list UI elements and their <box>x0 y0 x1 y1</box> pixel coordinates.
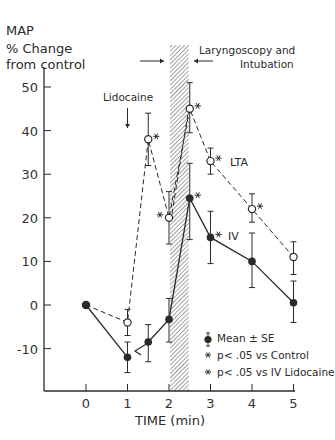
y-tick-label: 0 <box>30 298 38 313</box>
x-tick-label: 1 <box>123 396 131 411</box>
iv-marker <box>248 258 256 266</box>
lta-marker <box>165 214 172 221</box>
iv-line-segment <box>86 305 128 357</box>
lta-marker <box>207 158 214 165</box>
axes: -1001020304050012345 <box>17 67 298 411</box>
iv-marker <box>290 299 298 307</box>
data-series <box>82 83 297 373</box>
lta-marker <box>290 253 297 260</box>
lta-marker <box>248 205 255 212</box>
legend-mean-se-dot <box>204 336 211 343</box>
iv-marker <box>124 354 132 362</box>
iv-marker <box>144 338 152 346</box>
iv-marker <box>207 234 215 242</box>
iv-marker <box>82 301 90 309</box>
y-tick-label: 40 <box>21 124 38 139</box>
iv-marker <box>186 194 194 202</box>
x-tick-label: 4 <box>248 396 256 411</box>
intubation-left-arrow-head <box>160 59 164 64</box>
y-tick-label: 20 <box>21 211 38 226</box>
annotation-arrows <box>125 59 213 129</box>
lta-marker <box>145 136 152 143</box>
x-tick-label: 0 <box>82 396 90 411</box>
lta-marker <box>124 319 131 326</box>
iv-marker <box>165 316 173 324</box>
y-tick-label: 30 <box>21 167 38 182</box>
x-tick-label: 3 <box>206 396 214 411</box>
intubation-right-arrow-head <box>194 59 198 64</box>
lta-marker <box>186 105 193 112</box>
y-tick-label: -10 <box>17 342 38 357</box>
legend-symbols <box>204 333 211 375</box>
y-tick-label: 50 <box>21 80 38 95</box>
lidocaine-arrow-head <box>125 124 130 128</box>
x-tick-label: 2 <box>165 396 173 411</box>
x-tick-label: 5 <box>289 396 297 411</box>
y-tick-label: 10 <box>21 254 38 269</box>
